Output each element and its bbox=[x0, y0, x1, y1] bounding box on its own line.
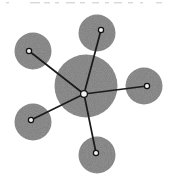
node-upper-left-marker[interactable] bbox=[26, 48, 31, 53]
hub-marker[interactable] bbox=[81, 91, 88, 98]
node-right-marker[interactable] bbox=[144, 83, 149, 88]
node-top-marker[interactable] bbox=[98, 27, 103, 32]
node-bottom-marker[interactable] bbox=[93, 150, 98, 155]
figure-container bbox=[0, 0, 180, 187]
node-lower-left-marker[interactable] bbox=[28, 117, 33, 122]
node-link-diagram bbox=[0, 0, 180, 187]
